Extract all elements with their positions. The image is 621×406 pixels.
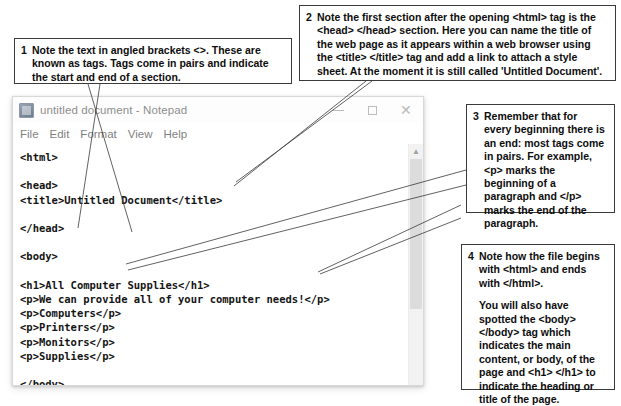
- menu-item-view[interactable]: View: [128, 128, 153, 140]
- callout-2-text: Note the first section after the opening…: [317, 11, 608, 78]
- callout-box-1: 1 Note the text in angled brackets <>. T…: [14, 38, 292, 84]
- callout-2-number: 2: [306, 11, 317, 24]
- callout-box-2: 2 Note the first section after the openi…: [299, 5, 616, 81]
- callout-box-4: 4 Note how the file begins with <html> a…: [461, 244, 615, 390]
- maximize-icon: [368, 106, 377, 115]
- menu-item-format[interactable]: Format: [80, 128, 116, 140]
- callout-4-body: Note how the file begins with <html> and…: [479, 250, 607, 406]
- window-titlebar[interactable]: untitled document - Notepad ✕: [13, 97, 423, 123]
- callout-3-text: Remember that for every beginning there …: [484, 110, 607, 231]
- maximize-button[interactable]: [355, 97, 389, 123]
- editor-area[interactable]: <html> <head> <title>Untitled Document</…: [13, 144, 423, 385]
- minimize-icon: [333, 110, 344, 111]
- window-menubar: File Edit Format View Help: [13, 123, 423, 144]
- html-source-text[interactable]: <html> <head> <title>Untitled Document</…: [13, 144, 408, 385]
- callout-4-number: 4: [468, 250, 479, 263]
- close-icon: ✕: [400, 103, 412, 117]
- notepad-icon: [19, 103, 34, 118]
- scrollbar-thumb[interactable]: [410, 159, 422, 309]
- scroll-up-arrow-icon[interactable]: ▲: [409, 144, 423, 159]
- notepad-window[interactable]: untitled document - Notepad ✕ File Edit …: [12, 96, 424, 386]
- menu-item-edit[interactable]: Edit: [50, 128, 70, 140]
- callout-1-text: Note the text in angled brackets <>. The…: [32, 44, 284, 84]
- menu-item-file[interactable]: File: [20, 128, 39, 140]
- close-button[interactable]: ✕: [389, 97, 423, 123]
- callout-4-paragraph-2: You will also have spotted the <body> </…: [479, 299, 607, 406]
- callout-1-number: 1: [21, 44, 32, 57]
- minimize-button[interactable]: [321, 97, 355, 123]
- callout-3-number: 3: [473, 110, 484, 123]
- callout-4-paragraph-1: Note how the file begins with <html> and…: [479, 250, 607, 290]
- window-controls: ✕: [321, 97, 423, 123]
- vertical-scrollbar[interactable]: ▲: [408, 144, 423, 385]
- callout-box-3: 3 Remember that for every beginning ther…: [466, 104, 615, 213]
- menu-item-help[interactable]: Help: [164, 128, 188, 140]
- window-title: untitled document - Notepad: [40, 104, 187, 116]
